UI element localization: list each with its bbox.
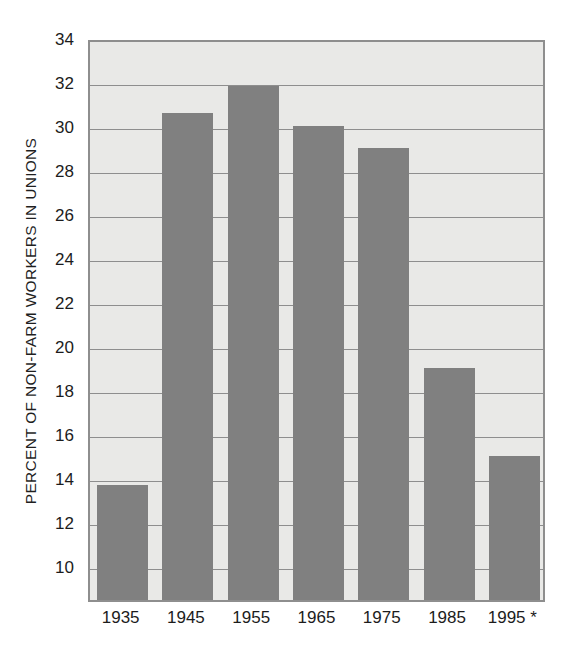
y-tick-label: 18 — [55, 382, 74, 402]
y-tick-label: 12 — [55, 514, 74, 534]
y-tick-label: 30 — [55, 118, 74, 138]
y-tick-label: 24 — [55, 250, 74, 270]
x-tick-label: 1935 — [102, 608, 140, 628]
bar — [97, 485, 148, 600]
bar — [293, 126, 344, 600]
bar — [228, 86, 279, 600]
bar — [358, 148, 409, 600]
bar-chart: PERCENT OF NON-FARM WORKERS IN UNIONS 34… — [0, 0, 572, 665]
y-tick-label: 26 — [55, 206, 74, 226]
y-tick-label: 34 — [55, 30, 74, 50]
y-tick-label: 28 — [55, 162, 74, 182]
x-tick-label: 1975 — [363, 608, 401, 628]
x-tick-label: 1965 — [298, 608, 336, 628]
x-axis-tick-labels: 1935194519551965197519851995 * — [88, 608, 545, 648]
bar — [162, 113, 213, 600]
y-axis-tick-labels: 34323028262422201816141210 — [0, 0, 82, 665]
y-tick-label: 10 — [55, 558, 74, 578]
y-tick-label: 20 — [55, 338, 74, 358]
x-tick-label: 1945 — [167, 608, 205, 628]
gridline — [90, 85, 543, 86]
y-tick-label: 16 — [55, 426, 74, 446]
y-tick-label: 14 — [55, 470, 74, 490]
plot-area — [88, 40, 545, 602]
x-tick-label: 1995 * — [488, 608, 537, 628]
bar — [489, 456, 540, 600]
y-tick-label: 32 — [55, 74, 74, 94]
bar — [424, 368, 475, 600]
y-tick-label: 22 — [55, 294, 74, 314]
x-tick-label: 1985 — [428, 608, 466, 628]
x-tick-label: 1955 — [232, 608, 270, 628]
